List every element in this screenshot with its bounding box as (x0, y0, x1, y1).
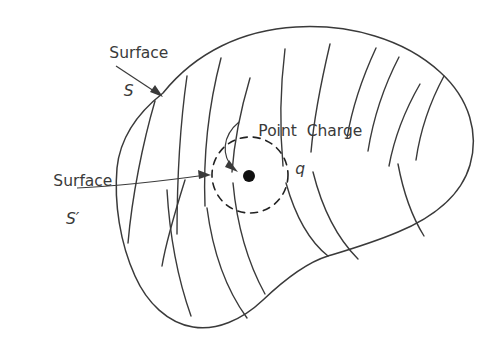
label-surface-s-prime: Surface S′ (33, 154, 112, 265)
label-surface-s-prime-symbol: S′ (33, 211, 112, 229)
label-surface-s: Surface S (89, 26, 168, 137)
label-surface-s-symbol: S (89, 83, 168, 101)
label-point-charge-symbol: q (238, 161, 362, 179)
label-point-charge-text: Point Charge (258, 122, 362, 140)
label-surface-s-text: Surface (109, 44, 168, 62)
label-surface-s-prime-text: Surface (53, 172, 112, 190)
electrostatics-figure: Surface S Surface S′ Point Charge q (0, 0, 501, 345)
label-point-charge: Point Charge q (238, 104, 362, 215)
